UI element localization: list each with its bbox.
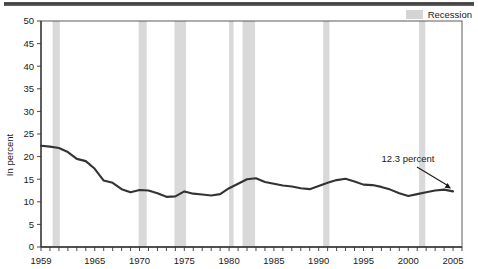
annotation-group: 12.3 percent — [382, 153, 451, 188]
y-tick-label: 15 — [23, 174, 34, 185]
annotation-label: 12.3 percent — [382, 153, 435, 164]
x-tick-label: 1990 — [308, 255, 329, 266]
y-tick-label: 40 — [23, 61, 34, 72]
x-tick-label: 1970 — [129, 255, 150, 266]
y-tick-label: 20 — [23, 151, 34, 162]
y-tick-label: 25 — [23, 128, 34, 139]
recession-band — [53, 21, 60, 247]
y-tick-label: 10 — [23, 196, 34, 207]
x-tick-label: 1995 — [353, 255, 374, 266]
x-tick-label: 1965 — [84, 255, 105, 266]
x-tick-label: 1985 — [263, 255, 284, 266]
x-tick-label: 1975 — [174, 255, 195, 266]
y-tick-label: 35 — [23, 83, 34, 94]
y-tick-label: 50 — [23, 15, 34, 26]
plot-area: 05101520253035404550 1959196519701975198… — [0, 0, 478, 269]
recession-band — [419, 21, 425, 247]
y-tick-label: 5 — [29, 219, 34, 230]
y-axis-title: In percent — [4, 134, 15, 177]
x-tick-label: 1959 — [30, 255, 51, 266]
x-tick-label: 1980 — [219, 255, 240, 266]
recession-band — [243, 21, 256, 247]
y-axis-ticks: 05101520253035404550 — [23, 15, 41, 252]
x-axis-ticks: 1959196519701975198019851990199520002005 — [30, 247, 463, 266]
recession-band — [174, 21, 186, 247]
recession-band — [323, 21, 329, 247]
recession-bands-group — [53, 21, 426, 247]
recession-band — [139, 21, 147, 247]
y-tick-label: 30 — [23, 106, 34, 117]
y-tick-label: 45 — [23, 38, 34, 49]
chart-figure: Recession 05101520253035404550 195919651… — [0, 0, 478, 269]
x-tick-label: 2005 — [442, 255, 463, 266]
y-tick-label: 0 — [29, 241, 34, 252]
recession-band — [229, 21, 233, 247]
x-tick-label: 2000 — [398, 255, 419, 266]
